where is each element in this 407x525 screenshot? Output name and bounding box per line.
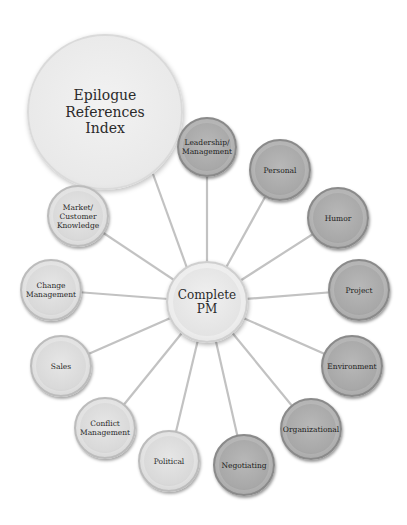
node-leadership: Leadership/ Management [177,117,237,177]
node-negotiating: Negotiating [213,434,275,496]
center-node-label: Complete PM [178,288,236,317]
node-humor-label: Humor [325,214,352,223]
node-change: Change Management [20,259,82,321]
node-change-label: Change Management [26,281,76,299]
node-political: Political [138,430,200,492]
node-environment-label: Environment [327,362,376,371]
node-conflict: Conflict Management [74,397,136,459]
node-personal: Personal [249,139,311,201]
node-humor: Humor [307,187,369,249]
epilogue-node: Epilogue References Index [27,34,183,190]
connector-epilogue [153,174,187,268]
node-personal-label: Personal [264,166,297,175]
diagram-canvas: Epilogue References IndexLeadership/ Man… [0,0,407,525]
center-node: Complete PM [166,261,248,343]
node-project-label: Project [345,286,372,295]
node-organizational: Organizational [280,398,342,460]
node-leadership-label: Leadership/ Management [182,138,232,156]
node-political-label: Political [154,457,185,466]
node-market: Market/ Customer Knowledge [47,185,109,247]
node-negotiating-label: Negotiating [221,461,266,470]
epilogue-node-label: Epilogue References Index [65,87,145,137]
node-market-label: Market/ Customer Knowledge [57,203,99,230]
node-environment: Environment [321,335,383,397]
node-sales: Sales [30,335,92,397]
node-organizational-label: Organizational [283,425,339,434]
node-project: Project [328,259,390,321]
node-conflict-label: Conflict Management [80,419,130,437]
node-sales-label: Sales [51,362,71,371]
